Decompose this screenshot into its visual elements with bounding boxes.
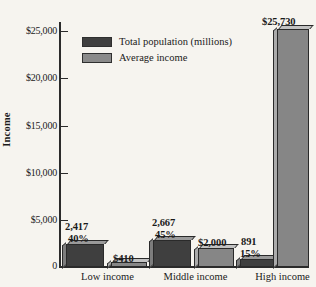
bar-population-low-income (66, 244, 104, 267)
y-tick-mark-10000 (61, 173, 68, 174)
bar-value-label-population-middle-income: 2,667 (152, 217, 175, 228)
y-tick-label-10000: $10,000 (2, 168, 57, 178)
legend-swatch-average-income (82, 53, 112, 63)
bar-percent-label-middle-income: 45% (155, 229, 176, 240)
y-tick-label-0: 0 (2, 261, 57, 271)
bar-income-high-income (277, 29, 309, 267)
bar-income-middle-income (198, 248, 234, 267)
y-tick-label-15000: $15,000 (2, 121, 57, 131)
bar-percent-label-high-income: 15% (240, 248, 261, 259)
y-tick-mark-20000 (61, 78, 68, 79)
y-tick-mark-25000 (61, 31, 68, 32)
bar-percent-label-low-income: 40% (68, 233, 89, 244)
bar-value-label-income-middle-income: $2,000 (198, 237, 226, 248)
y-axis-line (59, 22, 61, 268)
y-tick-label-20000: $20,000 (2, 73, 57, 83)
bar-value-label-income-high-income: $25,730 (262, 16, 295, 27)
bar-front-face (277, 29, 309, 267)
x-category-label-middle-income: Middle income (148, 271, 243, 283)
legend-label-average-income: Average income (119, 52, 187, 63)
x-category-label-high-income: High income (235, 271, 316, 283)
legend-item-total-population: Total population (millions) (82, 35, 232, 48)
bar-value-label-income-low-income: $410 (113, 253, 134, 264)
bar-front-face (198, 248, 234, 267)
bar-front-face (66, 244, 104, 267)
legend-item-average-income: Average income (82, 51, 232, 64)
legend-swatch-total-population (82, 37, 112, 47)
bar-value-label-population-high-income: 891 (241, 236, 256, 247)
chart-legend: Total population (millions) Average inco… (82, 35, 232, 67)
bar-front-face (153, 240, 191, 267)
y-tick-mark-15000 (61, 126, 68, 127)
legend-label-total-population: Total population (millions) (119, 36, 232, 47)
bar-value-label-population-low-income: 2,417 (65, 221, 88, 232)
bar-population-middle-income (153, 240, 191, 267)
y-tick-label-5000: $5,000 (2, 215, 57, 225)
y-tick-label-25000: $25,000 (2, 26, 57, 36)
x-category-label-low-income: Low income (60, 271, 155, 283)
bar-chart: Income $25,000 $20,000 $15,000 $10,000 $… (0, 0, 316, 287)
